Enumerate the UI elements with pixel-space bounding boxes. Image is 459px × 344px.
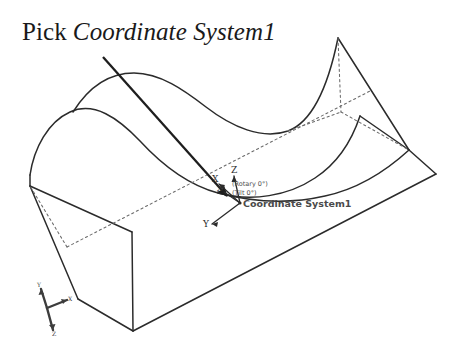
view-triad-glyph	[39, 289, 68, 330]
cs-y-axis-line	[212, 203, 240, 224]
title-italic-word: Coordinate System1	[67, 18, 276, 45]
right-end-bottom-edge	[409, 150, 436, 174]
figure-canvas: PickCoordinate System1 (Rotary 0°) (Tilt…	[0, 0, 459, 344]
triad-z-axis-letter: Z	[52, 331, 56, 337]
cs-x-axis-letter-upper: X	[212, 175, 218, 184]
right-end-upper-ridge	[338, 38, 409, 150]
hidden-back-right-vertical	[338, 38, 341, 112]
title-plain-word: Pick	[22, 18, 67, 45]
left-end-top-ridge	[30, 186, 132, 232]
solid-hidden-edges	[30, 38, 409, 247]
left-front-fold	[78, 299, 133, 331]
hidden-right-end-rear-diagonal	[341, 112, 409, 150]
rotary-angle-label: (Rotary 0°)	[232, 181, 268, 188]
right-end-front-silhouette	[360, 116, 409, 150]
cs-origin-point	[238, 201, 241, 204]
hidden-rear-wave	[288, 112, 341, 131]
left-end-front-face-right	[132, 232, 133, 331]
back-top-wave-edge	[73, 38, 338, 134]
technical-drawing-svg	[0, 0, 459, 344]
tilt-angle-label: (Tilt 0°)	[232, 190, 256, 197]
leader-arrow-line	[103, 57, 227, 196]
front-top-wave-edge	[30, 109, 360, 198]
cs-x-axis-letter-lower: X	[217, 185, 223, 193]
triad-y-axis-letter: Y	[37, 282, 41, 288]
instruction-title: PickCoordinate System1	[22, 18, 276, 46]
coordinate-system-name-label[interactable]: Coordinate System1	[243, 199, 351, 209]
triad-x-axis-letter: X	[68, 296, 72, 302]
cs-z-axis-letter: Z	[231, 166, 237, 175]
cs-y-axis-letter: Y	[203, 220, 209, 229]
